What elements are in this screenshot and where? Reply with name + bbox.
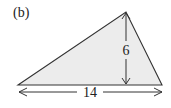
triangle-diagram: (b) 6 14 — [0, 0, 171, 108]
triangle-shape — [18, 12, 162, 85]
figure-label: (b) — [13, 5, 30, 21]
height-label: 6 — [123, 43, 130, 58]
base-label: 14 — [83, 85, 97, 100]
